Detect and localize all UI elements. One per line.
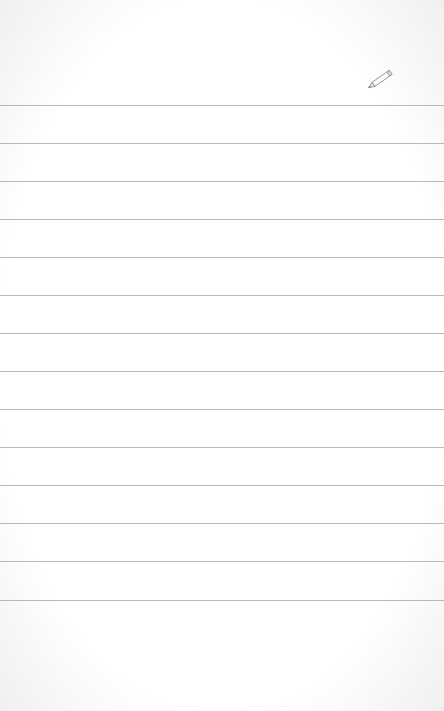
- pencil-icon[interactable]: [366, 66, 398, 92]
- ruled-line: [0, 219, 444, 220]
- ruled-line: [0, 181, 444, 182]
- ruled-line: [0, 409, 444, 410]
- ruled-line: [0, 523, 444, 524]
- ruled-line: [0, 295, 444, 296]
- ruled-line: [0, 143, 444, 144]
- ruled-line: [0, 371, 444, 372]
- ruled-line: [0, 333, 444, 334]
- ruled-line: [0, 105, 444, 106]
- notepad-page[interactable]: [0, 0, 444, 711]
- ruled-line: [0, 257, 444, 258]
- ruled-line: [0, 561, 444, 562]
- ruled-line: [0, 485, 444, 486]
- ruled-line: [0, 447, 444, 448]
- ruled-line: [0, 600, 444, 601]
